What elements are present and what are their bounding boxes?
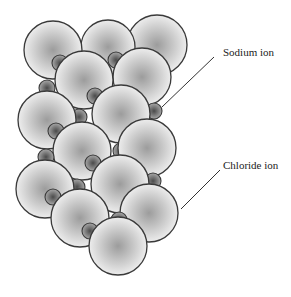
chloride-ion-sphere [89, 217, 147, 275]
nacl-lattice-diagram [0, 0, 291, 297]
leader-line-chloride [181, 170, 220, 209]
label-sodium-ion: Sodium ion [223, 46, 274, 58]
ion-layer [16, 15, 187, 275]
label-chloride-ion: Chloride ion [223, 159, 278, 171]
